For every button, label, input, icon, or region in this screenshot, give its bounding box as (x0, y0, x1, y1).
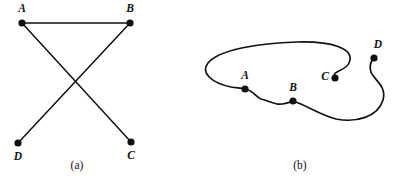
vertex-dot-a[interactable] (18, 19, 25, 26)
vertex-label-a: A (17, 2, 26, 14)
vertex-label-c: C (127, 149, 135, 161)
vertex-dot-c[interactable] (127, 138, 134, 145)
vertex-dot-b-d[interactable] (370, 54, 377, 61)
caption-panel-b: (b) (293, 159, 307, 172)
vertex-label-b-d: D (373, 38, 383, 50)
vertex-label-b-a: A (240, 69, 249, 81)
vertex-dot-b-a[interactable] (241, 85, 248, 92)
vertex-dot-b[interactable] (126, 19, 133, 26)
caption-panel-a: (a) (71, 159, 84, 172)
vertex-label-b-c: C (321, 70, 329, 82)
vertex-label-b: B (125, 2, 134, 14)
vertex-dot-d[interactable] (14, 139, 21, 146)
vertex-label-d: D (13, 150, 23, 162)
graph-figure-canvas: A B C D (a) A B C (0, 0, 401, 176)
vertex-dot-b-c[interactable] (331, 74, 338, 81)
vertex-label-b-b: B (288, 81, 297, 93)
vertex-dot-b-b[interactable] (289, 97, 296, 104)
figure-background (0, 0, 401, 176)
